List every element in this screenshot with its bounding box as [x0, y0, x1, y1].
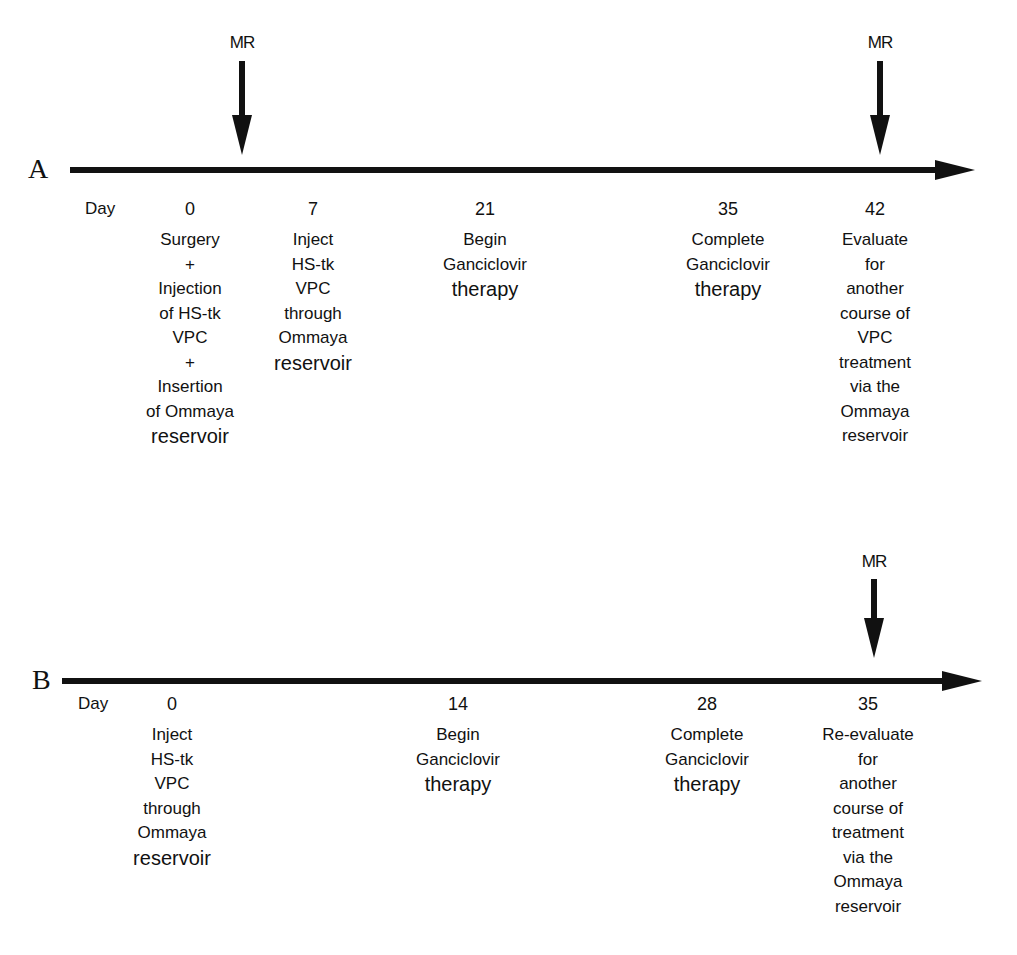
panel-letter-a: A [28, 155, 48, 183]
event-text-line: Ommaya [785, 400, 965, 425]
event-text-line: Ganciclovir [395, 253, 575, 278]
event-b-day-28: 28 Complete Ganciclovir therapy [617, 693, 797, 797]
event-a-day-21: 21 Begin Ganciclovir therapy [395, 198, 575, 302]
event-text-line: Ommaya [223, 326, 403, 351]
event-text-line: treatment [785, 351, 965, 376]
panel-letter-b: B [32, 666, 51, 694]
event-text-line: VPC [223, 277, 403, 302]
event-text-line: via the [785, 375, 965, 400]
event-text-line: reservoir [778, 895, 958, 920]
event-text-line: Inject [82, 723, 262, 748]
timeline-a-arrowhead-icon [935, 160, 975, 180]
event-text-line: another [778, 772, 958, 797]
mr-label: MR [850, 33, 910, 53]
event-text-line: Begin [395, 228, 575, 253]
event-day-number: 42 [785, 198, 965, 220]
event-text-line: Evaluate [785, 228, 965, 253]
event-text-line: therapy [368, 772, 548, 797]
event-text-line: via the [778, 846, 958, 871]
mr-arrow-shaft [239, 61, 245, 121]
event-text-line: VPC [82, 772, 262, 797]
timeline-a-axis [70, 167, 950, 173]
event-text-line: another [785, 277, 965, 302]
down-arrow-icon [864, 618, 884, 658]
event-day-number: 28 [617, 693, 797, 715]
event-day-number: 35 [778, 693, 958, 715]
mr-arrow-shaft [877, 61, 883, 121]
event-b-day-35: 35 Re-evaluate for another course of tre… [778, 693, 958, 919]
event-text-line: through [223, 302, 403, 327]
event-text-line: Ommaya [778, 870, 958, 895]
event-text-line: of Ommaya [100, 400, 280, 425]
event-text-line: therapy [617, 772, 797, 797]
event-a-day-42: 42 Evaluate for another course of VPC tr… [785, 198, 965, 449]
down-arrow-icon [232, 115, 252, 155]
event-text-line: Complete [617, 723, 797, 748]
event-text-line: HS-tk [82, 748, 262, 773]
event-text-line: through [82, 797, 262, 822]
event-text-line: therapy [395, 277, 575, 302]
event-day-number: 7 [223, 198, 403, 220]
event-b-day-14: 14 Begin Ganciclovir therapy [368, 693, 548, 797]
event-text-line: course of [785, 302, 965, 327]
event-text-line: HS-tk [223, 253, 403, 278]
timeline-b-axis [62, 678, 952, 684]
event-text-line: Insertion [100, 375, 280, 400]
event-text-line: Ganciclovir [617, 748, 797, 773]
event-day-number: 14 [368, 693, 548, 715]
event-day-number: 0 [82, 693, 262, 715]
event-text-line: Ganciclovir [368, 748, 548, 773]
event-text-line: Re-evaluate [778, 723, 958, 748]
event-text-line: for [785, 253, 965, 278]
timeline-b-arrowhead-icon [942, 671, 982, 691]
event-b-day-0: 0 Inject HS-tk VPC through Ommaya reserv… [82, 693, 262, 870]
event-text-line: Begin [368, 723, 548, 748]
event-text-line: reservoir [82, 846, 262, 871]
event-text-line: reservoir [785, 424, 965, 449]
event-text-line: treatment [778, 821, 958, 846]
event-text-line: reservoir [100, 424, 280, 449]
event-a-day-7: 7 Inject HS-tk VPC through Ommaya reserv… [223, 198, 403, 375]
event-text-line: Ommaya [82, 821, 262, 846]
down-arrow-icon [870, 115, 890, 155]
event-text-line: reservoir [223, 351, 403, 376]
event-text-line: VPC [785, 326, 965, 351]
event-text-line: course of [778, 797, 958, 822]
mr-label: MR [844, 552, 904, 572]
event-text-line: Inject [223, 228, 403, 253]
event-text-line: for [778, 748, 958, 773]
event-day-number: 21 [395, 198, 575, 220]
mr-label: MR [212, 33, 272, 53]
